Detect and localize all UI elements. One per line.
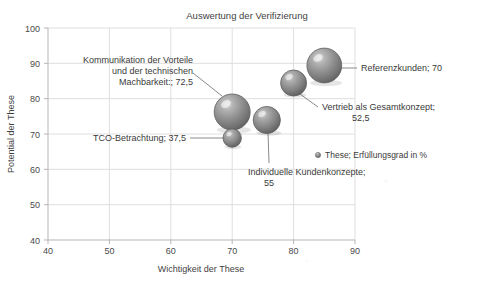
callout-line: TCO-Betrachtung; 37,5	[93, 133, 186, 143]
y-tick-label: 40	[30, 236, 40, 246]
callout-line: Referenzkunden; 70	[361, 63, 442, 73]
y-axis-title: Potential der These	[6, 95, 16, 173]
x-axis-ticks: 40 50 60 70 80 90	[43, 240, 360, 256]
callout-line: Machbarkeit:; 72,5	[119, 77, 193, 87]
callout-referenzkunden: Referenzkunden; 70	[361, 63, 442, 73]
bubble-circle	[281, 70, 307, 96]
bubble-marker-icon	[315, 152, 320, 157]
chart-legend[interactable]: These; Erfüllungsgrad in %	[315, 150, 427, 160]
x-tick-label: 70	[227, 246, 237, 256]
x-tick-label: 60	[166, 246, 176, 256]
y-tick-label: 50	[30, 200, 40, 210]
y-tick-label: 90	[30, 59, 40, 69]
bubble-circle	[253, 106, 280, 133]
callout-line: Vertrieb als Gesamtkonzept;	[322, 102, 435, 112]
y-tick-label: 100	[25, 24, 40, 34]
bubble-circle	[214, 94, 250, 130]
bubble-tco-betrachtung[interactable]	[223, 129, 242, 149]
x-axis-title: Wichtigkeit der These	[158, 264, 244, 274]
x-tick-label: 40	[43, 246, 53, 256]
y-tick-label: 70	[30, 130, 40, 140]
callout-line: und der technischen	[112, 66, 193, 76]
x-tick-label: 90	[350, 246, 360, 256]
callout-line: Individuelle Kundenkonzepte;	[248, 167, 366, 177]
x-tick-marks	[48, 240, 355, 244]
y-tick-label: 60	[30, 165, 40, 175]
y-tick-label: 80	[30, 94, 40, 104]
x-tick-label: 80	[289, 246, 299, 256]
chart-canvas: 100 90 80 70 60 50 40 40 50 60 70 80 90 …	[0, 0, 495, 287]
chart-title: Auswertung der Verifizierung	[186, 10, 307, 21]
callout-line: Kommunikation der Vorteile	[83, 55, 193, 65]
bubble-circle	[223, 129, 241, 147]
y-tick-marks	[44, 28, 48, 240]
callout-line: 55	[264, 178, 274, 188]
x-tick-label: 50	[104, 246, 114, 256]
y-axis-ticks: 100 90 80 70 60 50 40	[25, 24, 48, 246]
callout-line: 52,5	[352, 113, 370, 123]
callout-tco-betrachtung: TCO-Betrachtung; 37,5	[93, 133, 186, 143]
bubble-circle	[307, 48, 342, 83]
legend-label: These; Erfüllungsgrad in %	[325, 150, 427, 160]
bubble-chart: 100 90 80 70 60 50 40 40 50 60 70 80 90 …	[0, 0, 495, 287]
